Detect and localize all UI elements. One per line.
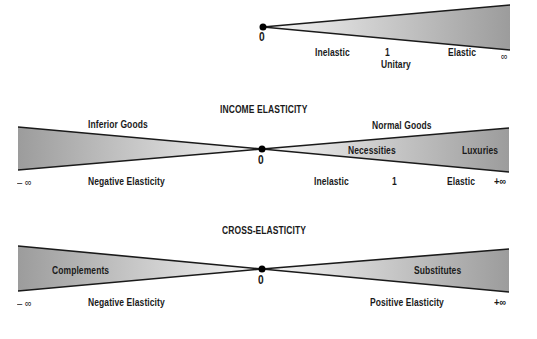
complements-label: Complements: [52, 265, 109, 276]
income-zero-label: 0: [258, 153, 264, 167]
price-elastic-label: Elastic: [448, 47, 476, 58]
substitutes-label: Substitutes: [414, 265, 461, 276]
price-inelastic-label: Inelastic: [315, 47, 350, 58]
income-one-label: 1: [392, 176, 397, 187]
price-zero-label: 0: [259, 30, 265, 44]
cross-positive-elasticity-label: Positive Elasticity: [370, 297, 444, 308]
cross-elasticity-title: CROSS-ELASTICITY: [222, 225, 306, 236]
price-elasticity-wedge: [260, 5, 511, 50]
cross-pos-infinity-label: +∞: [494, 296, 506, 308]
origin-dot: [259, 266, 266, 273]
income-negative-elasticity-label: Negative Elasticity: [88, 176, 165, 187]
price-one-label: 1: [385, 47, 390, 58]
income-inelastic-label: Inelastic: [314, 176, 349, 187]
income-pos-infinity-label: +∞: [494, 175, 506, 187]
income-elasticity-title: INCOME ELASTICITY: [220, 104, 307, 115]
income-neg-infinity-label: – ∞: [17, 176, 32, 188]
necessities-label: Necessities: [348, 145, 396, 156]
inferior-goods-label: Inferior Goods: [88, 119, 148, 130]
luxuries-label: Luxuries: [462, 145, 498, 156]
income-elastic-label: Elastic: [447, 176, 475, 187]
cross-neg-infinity-label: – ∞: [17, 297, 32, 309]
price-unitary-label: Unitary: [381, 59, 411, 70]
cross-zero-label: 0: [258, 273, 264, 287]
cross-negative-elasticity-label: Negative Elasticity: [88, 297, 165, 308]
price-infinity-label: ∞: [501, 50, 508, 62]
normal-goods-label: Normal Goods: [372, 120, 432, 131]
origin-dot: [259, 146, 266, 153]
